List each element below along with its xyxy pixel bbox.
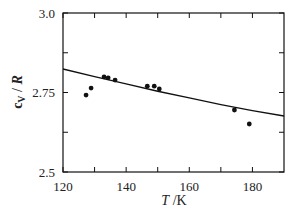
plot-border	[63, 13, 284, 172]
chart: 120140160180 2.52.753.0 T /K cV / R	[0, 0, 289, 213]
data-point	[232, 108, 237, 113]
data-point	[157, 87, 162, 92]
x-tick-label: 180	[243, 179, 263, 194]
y-axis-ticks: 2.52.753.0	[32, 6, 284, 180]
data-point	[89, 86, 94, 91]
data-point	[102, 75, 107, 80]
y-tick-label: 2.75	[32, 85, 55, 100]
y-tick-label: 3.0	[39, 6, 55, 21]
data-point	[145, 84, 150, 89]
model-line	[63, 69, 284, 116]
data-point	[113, 78, 118, 83]
data-point	[106, 75, 111, 80]
x-axis-label: T /K	[161, 193, 186, 208]
x-tick-label: 120	[53, 179, 73, 194]
data-point	[84, 93, 89, 98]
x-tick-label: 140	[116, 179, 136, 194]
x-axis-ticks: 120140160180	[53, 13, 262, 194]
model-curve	[63, 69, 284, 116]
y-tick-label: 2.5	[39, 165, 55, 180]
data-points	[84, 75, 252, 127]
x-tick-label: 160	[180, 179, 200, 194]
y-axis-label: cV / R	[10, 75, 27, 109]
plot-frame	[63, 13, 284, 172]
data-point	[152, 84, 157, 89]
data-point	[247, 122, 252, 127]
